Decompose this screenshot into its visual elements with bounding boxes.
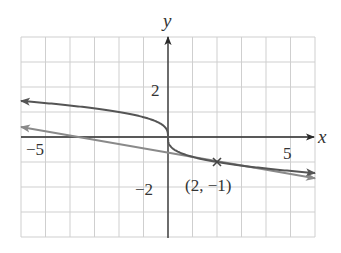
y-tick-label-neg2: −2 bbox=[135, 180, 153, 199]
y-tick-label-2: 2 bbox=[151, 81, 160, 100]
x-tick-label-5: 5 bbox=[283, 144, 292, 163]
y-axis-label: y bbox=[161, 10, 172, 31]
point-label: (2, −1) bbox=[185, 176, 231, 195]
x-axis-label: x bbox=[317, 126, 327, 147]
graph: y x −5 5 2 −2 (2, −1) bbox=[0, 0, 341, 253]
x-tick-label-neg5: −5 bbox=[26, 140, 44, 159]
